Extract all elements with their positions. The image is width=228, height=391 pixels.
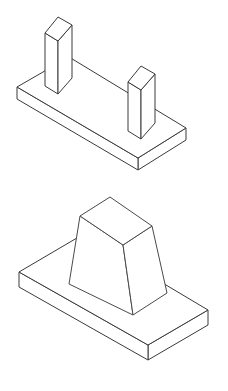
post-left-left-face	[45, 33, 58, 94]
figure-bottom	[19, 197, 208, 360]
drawing-sheet	[0, 0, 228, 391]
figure-top	[17, 17, 186, 170]
post-right	[128, 66, 155, 139]
isometric-drawing-canvas	[0, 0, 228, 391]
post-left	[45, 17, 72, 94]
post-right-left-face	[128, 82, 141, 139]
